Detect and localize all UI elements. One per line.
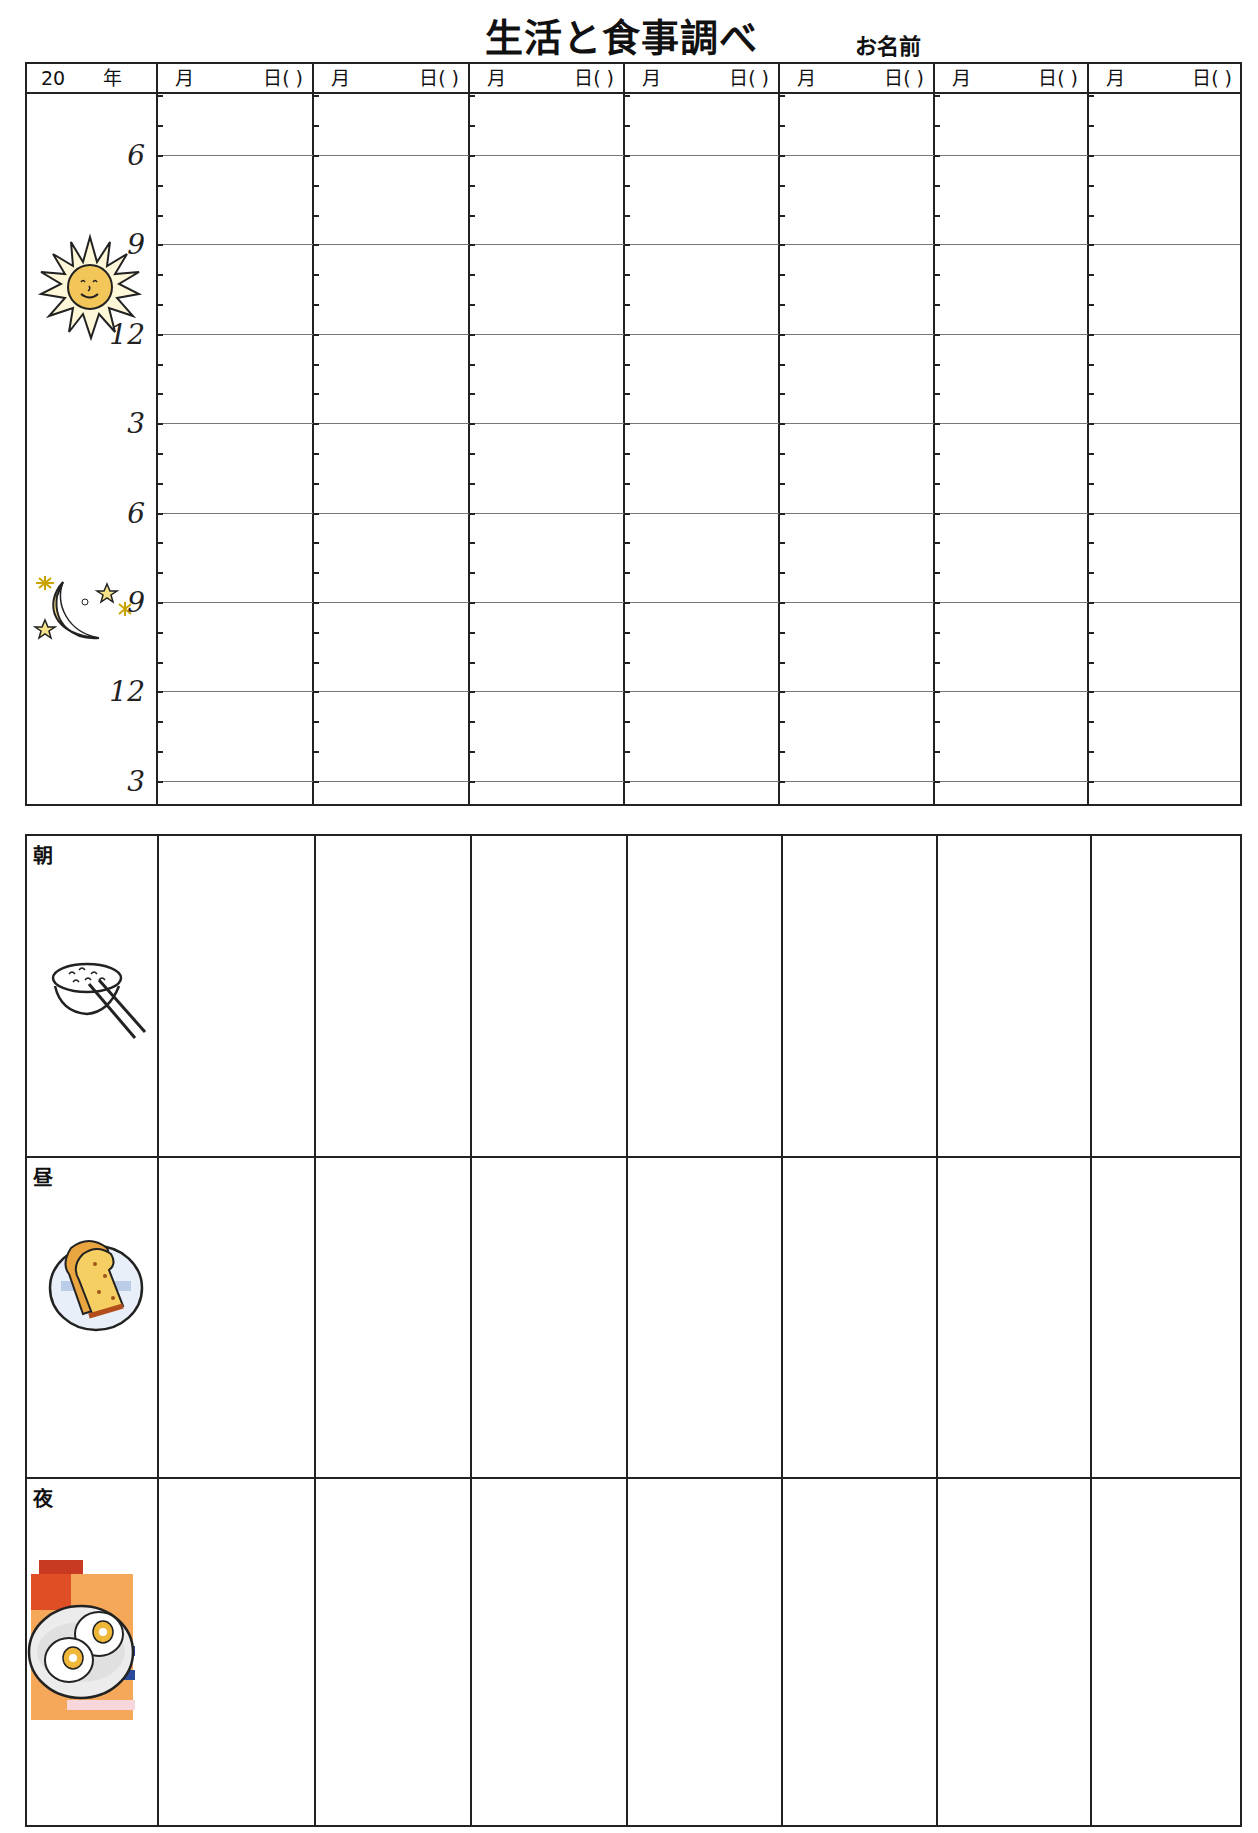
page-title: 生活と食事調べ [485,16,758,60]
egg-plate-icon [27,1560,139,1720]
day-schedule-column[interactable] [315,94,467,804]
column-divider [1087,64,1089,804]
meal-entry-cell[interactable] [939,836,1089,1156]
date-header-cell[interactable]: 月日( ) [624,64,779,92]
meal-entry-cell[interactable] [784,1158,935,1477]
day-schedule-column[interactable] [159,94,311,804]
hour-label: 6 [55,499,145,529]
rice-bowl-chopsticks-icon [47,956,157,1056]
day-weekday-label: 日( ) [884,64,924,92]
month-label: 月 [487,64,506,92]
meal-entry-cell[interactable] [939,1158,1089,1477]
meal-entry-cell[interactable] [784,836,935,1156]
toast-plate-icon [41,1226,151,1336]
meal-record-table: 朝 昼 夜 [25,834,1242,1827]
meal-entry-cell[interactable] [473,836,625,1156]
column-divider [778,64,780,804]
meal-entry-cell[interactable] [160,1479,313,1825]
meal-entry-cell[interactable] [784,1479,935,1825]
meal-entry-cell[interactable] [473,1479,625,1825]
meal-entry-cell[interactable] [473,1158,625,1477]
column-divider [933,64,935,804]
day-weekday-label: 日( ) [574,64,614,92]
date-header-cell[interactable]: 月日( ) [157,64,313,92]
day-schedule-column[interactable] [936,94,1086,804]
meal-entry-cell[interactable] [629,1158,780,1477]
hour-label: 9 [55,230,145,260]
meal-entry-cell[interactable] [160,1158,313,1477]
column-divider [156,64,158,804]
breakfast-label: 朝 [33,840,53,869]
day-weekday-label: 日( ) [729,64,769,92]
name-label: お名前 [855,28,921,60]
column-divider [312,64,314,804]
meal-entry-cell[interactable] [1093,836,1240,1156]
hour-label: 12 [55,677,145,707]
hour-label: 9 [55,588,145,618]
lunch-label: 昼 [33,1162,53,1191]
day-weekday-label: 日( ) [263,64,303,92]
column-divider [157,836,159,1825]
day-schedule-column[interactable] [471,94,622,804]
meal-entry-cell[interactable] [629,836,780,1156]
day-schedule-column[interactable] [781,94,932,804]
day-weekday-label: 日( ) [1038,64,1078,92]
meal-entry-cell[interactable] [160,836,313,1156]
column-divider [626,836,628,1825]
meal-entry-cell[interactable] [1093,1158,1240,1477]
year-prefix: 20 [41,64,65,92]
date-header-cell[interactable]: 月日( ) [1088,64,1242,92]
year-header-cell[interactable]: 20 年 [27,64,157,92]
day-schedule-column[interactable] [1090,94,1240,804]
month-label: 月 [331,64,350,92]
month-label: 月 [952,64,971,92]
daily-schedule-table: 20 年 月日( )月日( )月日( )月日( )月日( )月日( )月日( )… [25,62,1242,806]
dinner-label: 夜 [33,1483,53,1512]
meal-entry-cell[interactable] [317,1158,469,1477]
month-label: 月 [1106,64,1125,92]
meal-entry-cell[interactable] [629,1479,780,1825]
column-divider [623,64,625,804]
date-header-row: 20 年 月日( )月日( )月日( )月日( )月日( )月日( )月日( ) [27,64,1240,94]
column-divider [314,836,316,1825]
date-header-cell[interactable]: 月日( ) [779,64,934,92]
meal-entry-cell[interactable] [317,1479,469,1825]
column-divider [470,836,472,1825]
hour-label: 6 [55,141,145,171]
meal-entry-cell[interactable] [939,1479,1089,1825]
date-header-cell[interactable]: 月日( ) [313,64,469,92]
day-weekday-label: 日( ) [419,64,459,92]
month-label: 月 [797,64,816,92]
year-suffix: 年 [103,64,122,92]
column-divider [936,836,938,1825]
column-divider [468,64,470,804]
date-header-cell[interactable]: 月日( ) [469,64,624,92]
day-weekday-label: 日( ) [1192,64,1232,92]
meal-entry-cell[interactable] [317,836,469,1156]
day-schedule-column[interactable] [626,94,777,804]
column-divider [781,836,783,1825]
date-header-cell[interactable]: 月日( ) [934,64,1088,92]
month-label: 月 [642,64,661,92]
meal-entry-cell[interactable] [1093,1479,1240,1825]
hour-label: 3 [55,767,145,797]
hour-label: 3 [55,409,145,439]
column-divider [1090,836,1092,1825]
month-label: 月 [175,64,194,92]
hour-label: 12 [55,320,145,350]
